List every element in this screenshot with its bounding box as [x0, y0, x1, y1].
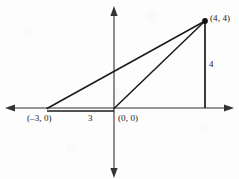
label-height-length: 4 [209, 60, 214, 69]
label-vertex-origin: (0, 0) [118, 114, 138, 123]
x-axis [5, 104, 234, 111]
label-vertex-left: (–3, 0) [27, 114, 52, 123]
coordinate-plane-figure: (4, 4) 4 (–3, 0) 3 (0, 0) [0, 0, 239, 179]
label-vertex-top-right: (4, 4) [210, 14, 230, 23]
point-marker-4-4 [202, 18, 208, 24]
segment-hypotenuse-short [114, 21, 205, 109]
label-base-length: 3 [88, 114, 93, 123]
figure-drawing [0, 0, 239, 179]
x-axis-left-arrowhead [5, 104, 15, 111]
y-axis [110, 6, 117, 178]
x-axis-right-arrowhead [224, 104, 234, 111]
y-axis-up-arrowhead [110, 6, 117, 16]
segment-hypotenuse-long [47, 21, 205, 109]
y-axis-down-arrowhead [110, 168, 117, 178]
